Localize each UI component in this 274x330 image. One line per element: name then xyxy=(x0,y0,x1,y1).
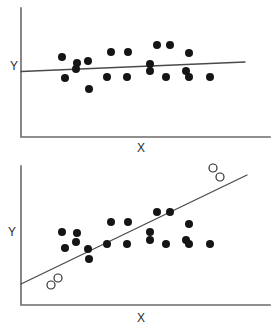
bottom-panel-data-point xyxy=(84,245,92,253)
bottom-panel-data-point xyxy=(146,236,154,244)
top-panel-data-point xyxy=(103,73,111,81)
bottom-panel-data-point xyxy=(153,208,161,216)
bottom-panel-data-point xyxy=(107,218,115,226)
top-panel-data-point xyxy=(185,49,193,57)
top-panel-data-point xyxy=(206,73,214,81)
figure-canvas: YXYX xyxy=(0,0,274,330)
top-panel: YX xyxy=(10,8,270,155)
bottom-panel-outlier-point xyxy=(216,173,224,181)
top-panel-regression-line xyxy=(21,62,245,72)
top-panel-data-point xyxy=(58,53,66,61)
bottom-panel-data-point xyxy=(206,240,214,248)
top-panel-data-point xyxy=(185,73,193,81)
bottom-panel-data-point xyxy=(162,240,170,248)
bottom-panel-outlier-point xyxy=(209,164,217,172)
bottom-panel-data-point xyxy=(73,229,81,237)
bottom-panel-data-point xyxy=(72,238,80,246)
top-panel-data-point xyxy=(123,73,131,81)
top-panel-data-point xyxy=(107,48,115,56)
bottom-panel-regression-line xyxy=(21,175,247,284)
bottom-panel-data-point xyxy=(103,240,111,248)
bottom-panel-data-point xyxy=(185,240,193,248)
top-panel-data-point xyxy=(166,41,174,49)
top-panel-x-axis-label: X xyxy=(137,141,145,155)
top-panel-data-point xyxy=(146,67,154,75)
top-panel-data-point xyxy=(84,57,92,65)
bottom-panel-outlier-point xyxy=(54,274,62,282)
bottom-panel-data-point xyxy=(58,228,66,236)
bottom-panel-data-point xyxy=(85,255,93,263)
top-panel-data-point xyxy=(153,41,161,49)
bottom-panel-data-point xyxy=(123,240,131,248)
top-panel-data-point xyxy=(85,85,93,93)
bottom-panel: YX xyxy=(8,164,270,325)
top-panel-data-point xyxy=(73,59,81,67)
top-panel-axes xyxy=(21,8,270,137)
bottom-panel-data-point xyxy=(61,244,69,252)
bottom-panel-data-point xyxy=(185,220,193,228)
top-panel-data-point xyxy=(162,73,170,81)
top-panel-data-point xyxy=(146,60,154,68)
top-panel-data-point xyxy=(124,48,132,56)
bottom-panel-data-point xyxy=(146,228,154,236)
bottom-panel-x-axis-label: X xyxy=(137,311,145,325)
bottom-panel-data-point xyxy=(124,218,132,226)
scatter-figure: YXYX xyxy=(0,0,274,330)
bottom-panel-data-point xyxy=(166,208,174,216)
bottom-panel-y-axis-label: Y xyxy=(8,225,16,239)
bottom-panel-axes xyxy=(21,166,270,305)
bottom-panel-outlier-point xyxy=(47,281,55,289)
top-panel-data-point xyxy=(61,74,69,82)
top-panel-y-axis-label: Y xyxy=(10,59,18,73)
